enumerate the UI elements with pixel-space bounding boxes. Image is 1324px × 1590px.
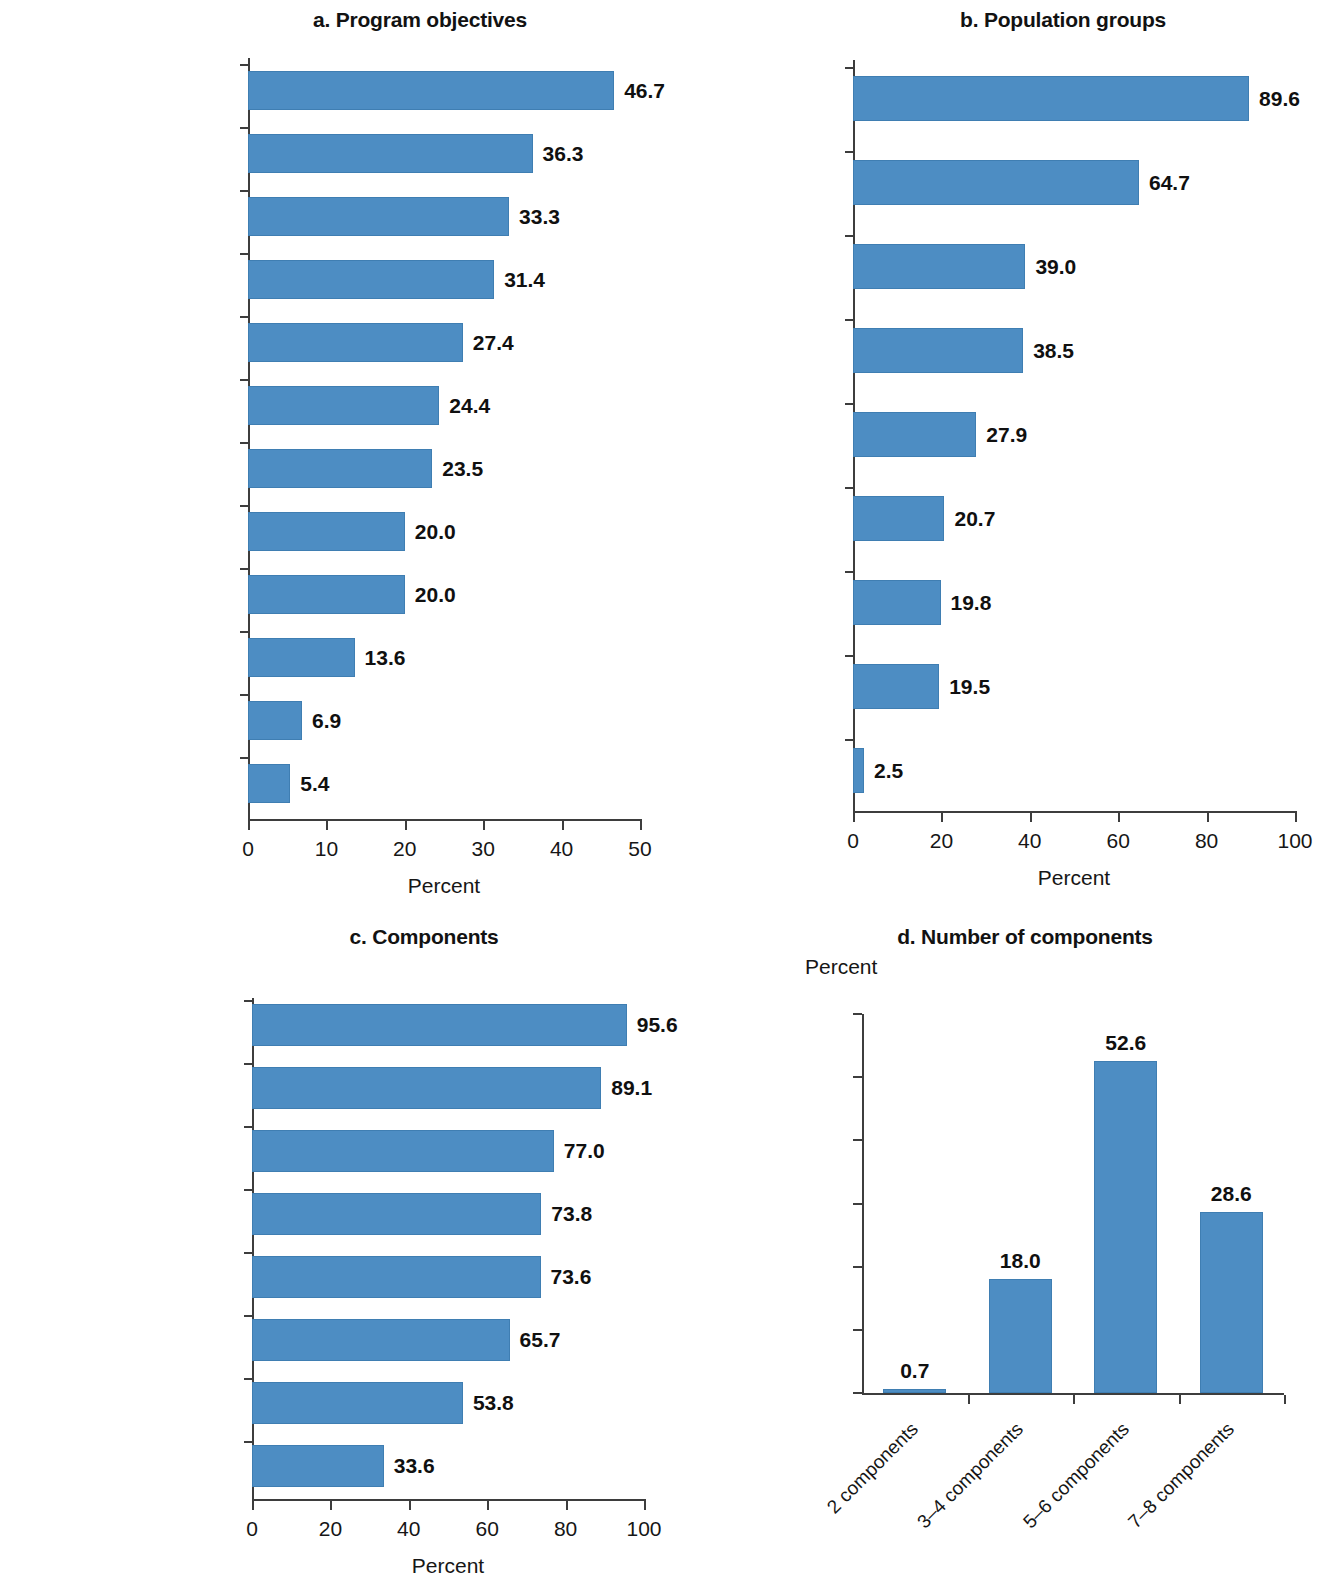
- panel-a-category-tick: [240, 631, 249, 633]
- panel-b-bar-value: 38.5: [1033, 339, 1074, 363]
- panel-a-category-tick: [240, 757, 249, 759]
- panel-c-bar-value: 95.6: [637, 1013, 678, 1037]
- panel-c-category-tick: [244, 1441, 253, 1443]
- panel-c-x-tick: [487, 1501, 489, 1510]
- panel-b-category-tick: [845, 571, 854, 573]
- panel-b-x-tick: [853, 813, 855, 822]
- panel-a-bar-value: 23.5: [442, 457, 483, 481]
- panel-a-bar-value: 20.0: [415, 583, 456, 607]
- panel-b-category-tick: [845, 403, 854, 405]
- panel-b-category-tick: [845, 67, 854, 69]
- panel-b-x-tick-label: 60: [1107, 829, 1130, 853]
- panel-b-x-tick-label: 80: [1195, 829, 1218, 853]
- panel-a-category-tick: [240, 442, 249, 444]
- panel-b-bar-value: 27.9: [986, 423, 1027, 447]
- panel-d-x-tick: [1179, 1395, 1181, 1404]
- panel-a-x-tick-label: 30: [472, 837, 495, 861]
- panel-b-x-tick-label: 20: [930, 829, 953, 853]
- panel-a-bar: [248, 638, 355, 677]
- panel-d-y-tick: [853, 1392, 862, 1394]
- panel-d-bar: [1200, 1212, 1263, 1393]
- panel-b-x-tick-label: 0: [847, 829, 859, 853]
- panel-c-bar-value: 73.8: [551, 1202, 592, 1226]
- panel-c-x-axis-label: Percent: [412, 1554, 484, 1578]
- panel-d-y-axis-line: [862, 1014, 864, 1395]
- panel-c-bar-value: 77.0: [564, 1139, 605, 1163]
- panel-c-category-tick: [244, 1126, 253, 1128]
- panel-d-y-axis-label: Percent: [805, 955, 877, 979]
- panel-d-y-tick: [853, 1203, 862, 1205]
- panel-a-bar: [248, 449, 432, 488]
- panel-a-category-tick: [240, 190, 249, 192]
- panel-d-y-tick: [853, 1329, 862, 1331]
- panel-b-bar-value: 19.8: [951, 591, 992, 615]
- panel-c-bar-value: 73.6: [551, 1265, 592, 1289]
- panel-c-category-tick: [244, 1315, 253, 1317]
- panel-a-bar: [248, 701, 302, 740]
- panel-a-x-tick-label: 20: [393, 837, 416, 861]
- panel-c-bar: [252, 1067, 601, 1109]
- panel-c-x-tick-label: 0: [246, 1517, 258, 1541]
- panel-c-x-tick: [252, 1501, 254, 1510]
- panel-a-bar-value: 6.9: [312, 709, 341, 733]
- panel-a-category-tick: [240, 379, 249, 381]
- panel-d-bar-value: 18.0: [1000, 1249, 1041, 1273]
- panel-b-bar: [853, 664, 939, 709]
- panel-a-bar-value: 46.7: [624, 79, 665, 103]
- panel-b-title: b. Population groups: [960, 8, 1166, 32]
- panel-c-x-axis-line: [252, 1499, 646, 1501]
- panel-c-x-tick-label: 60: [476, 1517, 499, 1541]
- panel-c-bar: [252, 1193, 541, 1235]
- panel-a-bar: [248, 260, 494, 299]
- panel-b-x-tick-label: 100: [1277, 829, 1312, 853]
- panel-a-bar-value: 24.4: [449, 394, 490, 418]
- panel-b-category-tick: [845, 235, 854, 237]
- panel-b-x-tick: [1295, 813, 1297, 822]
- panel-a-bar-value: 31.4: [504, 268, 545, 292]
- panel-b-bar-value: 89.6: [1259, 87, 1300, 111]
- panel-c-bar-value: 89.1: [611, 1076, 652, 1100]
- panel-c-bar: [252, 1130, 554, 1172]
- panel-a-title: a. Program objectives: [313, 8, 527, 32]
- panel-b-bar-value: 19.5: [949, 675, 990, 699]
- panel-a-x-tick: [405, 821, 407, 830]
- panel-c-bar-value: 33.6: [394, 1454, 435, 1478]
- panel-c-x-tick: [330, 1501, 332, 1510]
- panel-b-x-tick: [1207, 813, 1209, 822]
- panel-a-bar: [248, 71, 614, 110]
- panel-a-x-tick-label: 10: [315, 837, 338, 861]
- panel-d-x-tick: [1073, 1395, 1075, 1404]
- panel-c-bar: [252, 1382, 463, 1424]
- panel-d-y-tick: [853, 1139, 862, 1141]
- panel-a-bar: [248, 197, 509, 236]
- panel-c-x-tick-label: 100: [626, 1517, 661, 1541]
- panel-d-y-tick: [853, 1013, 862, 1015]
- panel-d-x-tick: [1284, 1395, 1286, 1404]
- panel-b-category-tick: [845, 739, 854, 741]
- panel-a-x-tick: [248, 821, 250, 830]
- panel-d-bar-value: 0.7: [900, 1359, 929, 1383]
- panel-a-category-tick: [240, 694, 249, 696]
- panel-d-bar: [883, 1389, 946, 1393]
- panel-b-category-tick: [845, 319, 854, 321]
- panel-a-category-tick: [240, 568, 249, 570]
- panel-b-x-tick: [941, 813, 943, 822]
- panel-c-bar: [252, 1256, 541, 1298]
- panel-c-bar: [252, 1319, 510, 1361]
- panel-b-bar: [853, 76, 1249, 121]
- panel-a-x-tick: [326, 821, 328, 830]
- panel-a-x-tick-label: 0: [242, 837, 254, 861]
- panel-a-x-tick: [562, 821, 564, 830]
- panel-a-x-tick-label: 40: [550, 837, 573, 861]
- panel-b-category-tick: [845, 487, 854, 489]
- panel-c-x-tick: [409, 1501, 411, 1510]
- panel-c-bar: [252, 1004, 627, 1046]
- panel-a-x-axis-line: [248, 819, 642, 821]
- panel-b-bar-value: 20.7: [954, 507, 995, 531]
- panel-b-bar: [853, 160, 1139, 205]
- panel-a-bar: [248, 134, 533, 173]
- panel-a-bar-value: 36.3: [543, 142, 584, 166]
- panel-a-category-tick: [240, 505, 249, 507]
- panel-a-bar: [248, 764, 290, 803]
- panel-a-bar-value: 33.3: [519, 205, 560, 229]
